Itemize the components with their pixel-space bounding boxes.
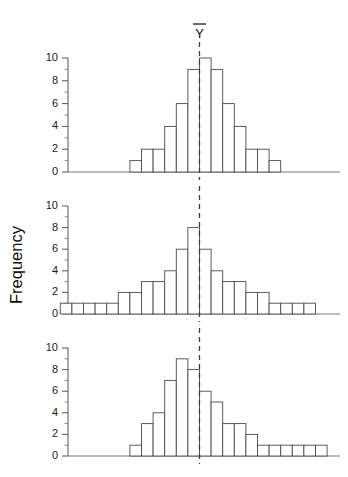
histogram-bar (130, 445, 142, 456)
histogram-bar (84, 303, 96, 314)
histogram-bar (234, 282, 246, 314)
panel-1-ticklabel-6: 6 (52, 97, 58, 109)
histogram-bar (223, 282, 235, 314)
panel-2-ticklabel-0: 0 (52, 307, 58, 319)
panel-3-ticklabel-8: 8 (52, 363, 58, 375)
histogram-bar (142, 424, 154, 456)
histogram-bar (223, 104, 235, 172)
panel-2: Frequency 10 8 6 4 2 0 (7, 186, 340, 322)
histogram-bar (316, 445, 328, 456)
panel-1-ticklabel-10: 10 (46, 51, 58, 63)
histogram-bar (130, 292, 142, 314)
histogram-bar (269, 445, 281, 456)
histogram-bar (200, 249, 212, 314)
histogram-bar (234, 424, 246, 456)
histogram-bar (142, 282, 154, 314)
histogram-bar (304, 303, 316, 314)
panel-3-bars (130, 359, 327, 456)
histogram-bar (246, 434, 258, 456)
histogram-bar (200, 58, 212, 172)
histogram-bar (153, 282, 165, 314)
panel-1-ticklabel-4: 4 (52, 119, 58, 131)
mean-label-group: Y (193, 24, 206, 41)
histogram-bar (153, 149, 165, 172)
panel-3: 10 8 6 4 2 0 (46, 328, 340, 464)
histogram-bar (292, 303, 304, 314)
mean-label-text: Y (195, 26, 204, 41)
panel-2-ticklabel-6: 6 (52, 242, 58, 254)
histogram-bar (223, 424, 235, 456)
histogram-bar (176, 249, 188, 314)
histogram-bar (246, 292, 258, 314)
histogram-bar (188, 228, 200, 314)
panel-2-ticklabel-8: 8 (52, 221, 58, 233)
panel-3-ticklabel-10: 10 (46, 341, 58, 353)
histogram-bar (304, 445, 316, 456)
histogram-bar (211, 402, 223, 456)
panel-2-ticklabel-10: 10 (46, 199, 58, 211)
panel-2-ticklabel-4: 4 (52, 264, 58, 276)
histogram-bar (165, 271, 177, 314)
histogram-bar (153, 413, 165, 456)
panel-1: 10 8 6 4 2 0 (46, 42, 340, 180)
histogram-bar (211, 69, 223, 172)
panel-1-ticklabel-8: 8 (52, 74, 58, 86)
histogram-bar (234, 126, 246, 172)
histogram-bar (107, 303, 119, 314)
histogram-bar (269, 303, 281, 314)
histogram-bar (292, 445, 304, 456)
histogram-bar (176, 359, 188, 456)
panel-2-bars (60, 228, 315, 314)
histogram-bar (258, 292, 270, 314)
histogram-bar (165, 380, 177, 456)
histogram-bar (130, 161, 142, 172)
histogram-bar (60, 303, 72, 314)
histogram-bar (176, 104, 188, 172)
histogram-bar (281, 303, 293, 314)
histogram-bar (269, 161, 281, 172)
figure-canvas: Y 10 8 6 4 2 0 (0, 0, 348, 477)
histogram-bar (211, 271, 223, 314)
panel-3-ticklabel-4: 4 (52, 406, 58, 418)
histogram-bar (118, 292, 130, 314)
y-axis-title: Frequency (7, 225, 25, 304)
histogram-bar (246, 149, 258, 172)
panel-3-ticklabel-2: 2 (52, 427, 58, 439)
histogram-bar (258, 445, 270, 456)
histogram-bar (72, 303, 84, 314)
histogram-bar (200, 391, 212, 456)
histogram-bar (258, 149, 270, 172)
panel-1-ticklabel-0: 0 (52, 165, 58, 177)
panel-1-ticklabel-2: 2 (52, 142, 58, 154)
panel-2-ticklabel-2: 2 (52, 285, 58, 297)
panel-3-ticklabel-6: 6 (52, 384, 58, 396)
histogram-bar (188, 370, 200, 456)
histogram-bar (165, 126, 177, 172)
histogram-bar (188, 69, 200, 172)
histogram-bar (281, 445, 293, 456)
panel-1-bars (130, 58, 281, 172)
histogram-figure: Y 10 8 6 4 2 0 (0, 0, 348, 477)
panel-3-ticklabel-0: 0 (52, 449, 58, 461)
histogram-bar (142, 149, 154, 172)
histogram-bar (95, 303, 107, 314)
